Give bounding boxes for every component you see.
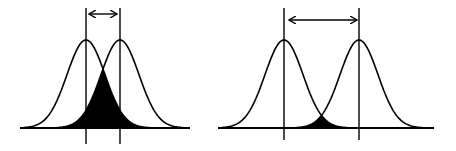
distribution-curve-1 xyxy=(222,40,430,128)
distribution-curve-2 xyxy=(222,40,430,128)
overlap-diagram xyxy=(0,0,456,151)
panel-small-separation xyxy=(20,8,190,144)
panel-large-separation xyxy=(218,8,434,140)
